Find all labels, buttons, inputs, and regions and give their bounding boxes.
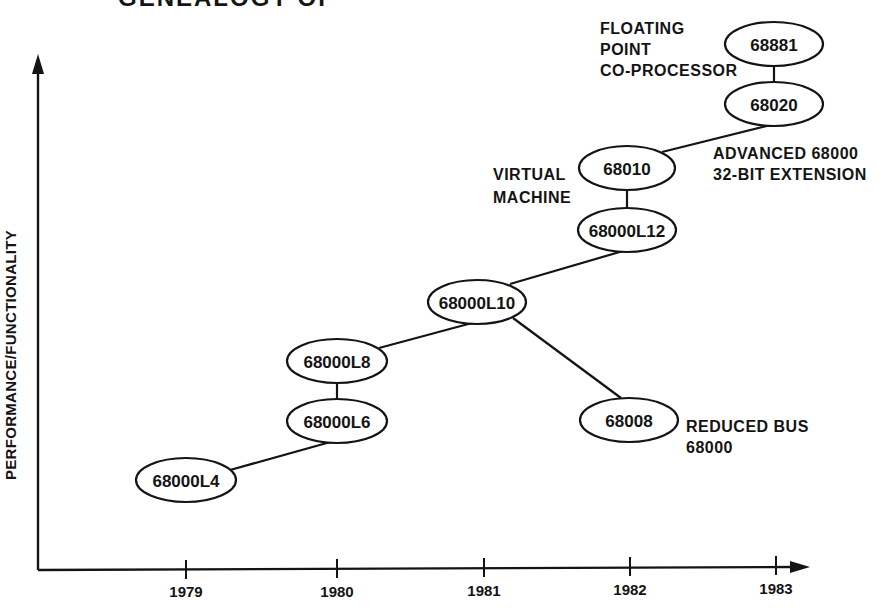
axes: 1979 1980 1981 1982 1983 PERFORMANCE/FUN… <box>2 54 810 600</box>
annotation-line: VIRTUAL <box>493 166 566 183</box>
genealogy-diagram: GENEALOGY OF 1979 1980 1981 1982 1983 PE… <box>0 0 891 612</box>
tick-label-1982: 1982 <box>613 581 646 598</box>
node-68020: 68020 <box>725 82 823 126</box>
node-68000L4: 68000L4 <box>136 458 236 502</box>
node-label: 68881 <box>750 36 797 55</box>
edge-68000L10-68000L12 <box>510 251 623 284</box>
annotation-line: 68000 <box>686 439 733 456</box>
edge-68000L8-68000L10 <box>379 323 472 348</box>
node-68881: 68881 <box>725 22 823 66</box>
x-axis-arrow-icon <box>790 561 810 573</box>
annotation-line: ADVANCED 68000 <box>713 145 858 162</box>
tick-label-1983: 1983 <box>759 580 792 597</box>
node-label: 68000L8 <box>303 353 370 372</box>
node-label: 68000L10 <box>439 294 516 313</box>
page-title: GENEALOGY OF <box>118 0 335 11</box>
node-68000L8: 68000L8 <box>287 339 387 383</box>
y-axis-arrow-icon <box>32 54 44 74</box>
annotation-line: MACHINE <box>493 189 571 206</box>
annotation-line: CO-PROCESSOR <box>600 62 738 79</box>
annotation-line: FLOATING <box>600 20 685 37</box>
node-68000L6: 68000L6 <box>287 399 387 443</box>
edge-68000L4-68000L6 <box>230 441 334 470</box>
annotation-line: 32-BIT EXTENSION <box>713 166 867 183</box>
tick-label-1979: 1979 <box>169 583 202 600</box>
x-axis-line <box>38 567 795 570</box>
node-label: 68000L12 <box>589 222 666 241</box>
node-label: 68000L4 <box>152 472 220 491</box>
tick-label-1981: 1981 <box>467 582 500 599</box>
y-axis-title: PERFORMANCE/FUNCTIONALITY <box>2 230 19 480</box>
node-68008: 68008 <box>580 398 678 442</box>
node-label: 68010 <box>603 160 650 179</box>
annotation-line: REDUCED BUS <box>686 418 809 435</box>
tick-label-1980: 1980 <box>320 583 353 600</box>
node-label: 68008 <box>605 412 652 431</box>
node-68000L10: 68000L10 <box>428 280 526 324</box>
annotation-advanced-68000: ADVANCED 68000 32-BIT EXTENSION <box>713 145 867 183</box>
annotation-reduced-bus: REDUCED BUS 68000 <box>686 418 809 456</box>
node-label: 68020 <box>750 96 797 115</box>
node-68000L12: 68000L12 <box>578 208 676 252</box>
annotation-line: POINT <box>600 41 651 58</box>
annotation-floating-point: FLOATING POINT CO-PROCESSOR <box>600 20 738 79</box>
edge-68000L10-68008 <box>513 318 621 398</box>
node-68010: 68010 <box>579 146 675 190</box>
annotation-virtual-machine: VIRTUAL MACHINE <box>493 166 571 206</box>
node-label: 68000L6 <box>303 413 370 432</box>
